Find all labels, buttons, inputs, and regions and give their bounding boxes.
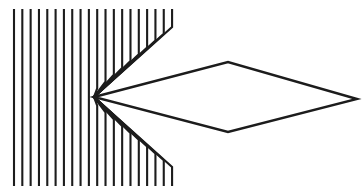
figure-canvas [0, 0, 364, 193]
illusion-figure [0, 0, 364, 193]
